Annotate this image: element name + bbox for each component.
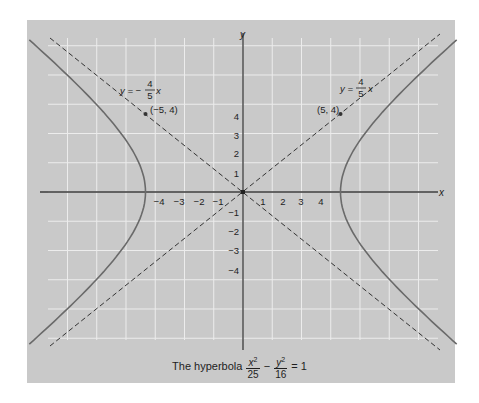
svg-text:4: 4 <box>147 78 152 89</box>
svg-text:5: 5 <box>147 90 152 101</box>
y-tick: −1 <box>228 207 239 218</box>
y-tick-labels: 1 2 3 4 −1 −2 −3 −4 <box>228 111 239 276</box>
hyperbola-figure: x y −4 −3 −2 −1 1 2 3 4 1 2 3 4 −1 −2 −3… <box>0 0 479 403</box>
y-tick: 4 <box>234 111 239 122</box>
y-tick: −2 <box>228 226 239 237</box>
x-tick: −4 <box>154 196 165 207</box>
y-tick: −3 <box>228 245 239 256</box>
asymptote-label-positive: y = 4 5 x <box>339 76 374 99</box>
x-tick: 4 <box>318 196 323 207</box>
svg-text:4: 4 <box>358 76 363 87</box>
svg-text:y = −: y = − <box>119 85 142 96</box>
point-label-neg5-4: (−5, 4) <box>150 104 178 115</box>
caption-equals: = 1 <box>291 360 307 372</box>
y-tick: 2 <box>234 148 239 159</box>
caption-prefix: The hyperbola <box>172 360 242 372</box>
figure-caption: The hyperbola x2 25 − y2 16 = 1 <box>0 354 479 380</box>
caption-fraction-y: y2 16 <box>274 354 287 380</box>
x-axis-label: x <box>438 187 445 198</box>
svg-text:y =: y = <box>339 83 353 94</box>
svg-text:5: 5 <box>358 88 363 99</box>
x-tick: 3 <box>298 196 303 207</box>
caption-operator: − <box>264 360 270 372</box>
y-axis-label: y <box>239 29 246 40</box>
svg-text:x: x <box>155 85 162 96</box>
x-tick: −3 <box>174 196 185 207</box>
y-tick: 3 <box>234 130 239 141</box>
point-marker-neg5-4 <box>144 112 148 116</box>
x-tick: 2 <box>280 196 285 207</box>
x-tick-labels: −4 −3 −2 −1 1 2 3 4 <box>154 196 324 207</box>
x-tick: 1 <box>260 196 265 207</box>
y-tick: −4 <box>228 265 239 276</box>
hyperbola-plot: x y −4 −3 −2 −1 1 2 3 4 1 2 3 4 −1 −2 −3… <box>0 0 479 403</box>
x-tick: −1 <box>213 196 224 207</box>
y-tick: 1 <box>234 168 239 179</box>
origin-marker <box>241 190 245 194</box>
caption-fraction-x: x2 25 <box>246 354 259 380</box>
svg-text:x: x <box>367 83 374 94</box>
x-tick: −2 <box>194 196 205 207</box>
point-label-5-4: (5, 4) <box>317 104 339 115</box>
